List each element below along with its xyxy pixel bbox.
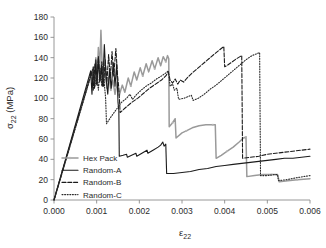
series-marker	[226, 150, 228, 152]
series-random-a	[54, 44, 310, 200]
x-axis-title: ε22	[179, 227, 191, 240]
series-marker	[130, 85, 132, 87]
y-tick-label: 100	[34, 93, 48, 103]
legend-swatch-marker	[69, 157, 71, 159]
legend-item-random-b[interactable]: Random-B	[62, 178, 121, 187]
stress-strain-chart-figure: 020406080100120140160180 0.0000.0010.002…	[0, 0, 326, 248]
y-tick-label: 140	[34, 53, 48, 63]
series-marker	[212, 124, 214, 126]
y-axis-title-unit: (MPa)	[4, 87, 15, 116]
x-tick-label: 0.006	[299, 206, 321, 216]
series-marker	[296, 179, 298, 181]
x-tick-label: 0.003	[171, 206, 193, 216]
svg-text:ε22: ε22	[179, 227, 191, 240]
y-axis-ticks: 020406080100120140160180	[34, 12, 54, 205]
y-tick-label: 20	[39, 175, 49, 185]
x-tick-label: 0.004	[214, 206, 236, 216]
x-axis-title-subscript: 22	[183, 233, 191, 240]
y-tick-label: 120	[34, 73, 48, 83]
legend-item-hex-pack[interactable]: Hex Pack	[62, 154, 118, 163]
legend-label: Hex Pack	[83, 154, 118, 163]
series-line	[54, 44, 310, 200]
x-tick-label: 0.001	[86, 206, 108, 216]
chart-legend: Hex PackRandom-ARandom-BRandom-C	[62, 154, 122, 200]
x-axis-ticks: 0.0000.0010.0020.0030.0040.0050.006	[43, 200, 321, 216]
legend-item-random-c[interactable]: Random-C	[62, 191, 122, 200]
svg-text:σ22 (MPa): σ22 (MPa)	[4, 87, 17, 129]
legend-label: Random-B	[83, 178, 121, 187]
y-axis-title: σ22 (MPa)	[4, 87, 17, 129]
legend-label: Random-C	[83, 191, 122, 200]
y-axis-title-subscript: 22	[10, 115, 17, 123]
chart-canvas: 020406080100120140160180 0.0000.0010.002…	[0, 0, 326, 248]
series-marker	[245, 136, 247, 138]
series-marker	[154, 68, 156, 70]
x-tick-label: 0.005	[257, 206, 279, 216]
legend-label: Random-A	[83, 166, 122, 175]
x-tick-label: 0.002	[129, 206, 151, 216]
x-tick-label: 0.000	[43, 206, 65, 216]
y-tick-label: 60	[39, 134, 49, 144]
series-marker	[165, 61, 167, 63]
series-marker	[185, 130, 187, 132]
y-tick-label: 80	[39, 114, 49, 124]
y-tick-label: 180	[34, 12, 48, 22]
data-series-layer	[53, 30, 310, 201]
series-marker	[110, 89, 112, 91]
y-tick-label: 0	[43, 195, 48, 205]
series-marker	[142, 75, 144, 77]
y-tick-label: 40	[39, 154, 49, 164]
y-tick-label: 160	[34, 32, 48, 42]
legend-item-random-a[interactable]: Random-A	[62, 166, 122, 175]
series-marker	[172, 122, 174, 124]
